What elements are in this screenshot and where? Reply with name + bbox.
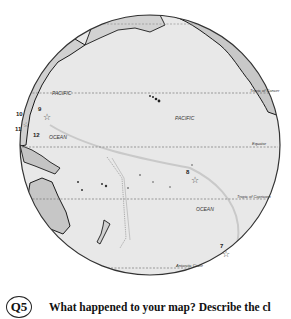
marker-10-star-icon: ☆ xyxy=(23,121,29,128)
tropic-of-capricorn-label: Tropic of Capricorn xyxy=(237,194,271,199)
marker-7-star-icon: ☆ xyxy=(222,249,230,259)
marker-10-label: 10 xyxy=(16,111,23,117)
ocean-label-south: OCEAN xyxy=(196,206,214,212)
marker-12-label: 12 xyxy=(33,132,40,138)
question-text: What happened to your map? Describe the … xyxy=(49,301,271,313)
equator-label: Equator xyxy=(252,141,267,146)
globe-svg: Tropic of Cancer Equator Tropic of Capri… xyxy=(0,0,291,285)
pacific-label-west: PACIFIC xyxy=(52,90,72,96)
ocean-label-west: OCEAN xyxy=(49,134,67,140)
question-row: Q5 What happened to your map? Describe t… xyxy=(6,295,271,319)
pacific-ocean-globe-map: Tropic of Cancer Equator Tropic of Capri… xyxy=(0,0,291,285)
marker-9-star-icon: ☆ xyxy=(43,112,51,122)
marker-11-label: 11 xyxy=(15,126,22,132)
tropic-of-cancer-label: Tropic of Cancer xyxy=(250,88,280,93)
question-number-badge: Q5 xyxy=(6,296,32,318)
antarctic-circle-label: Antarctic Circle xyxy=(175,263,204,268)
pacific-label-east: PACIFIC xyxy=(175,115,195,121)
marker-8-star-icon: ☆ xyxy=(191,175,199,185)
